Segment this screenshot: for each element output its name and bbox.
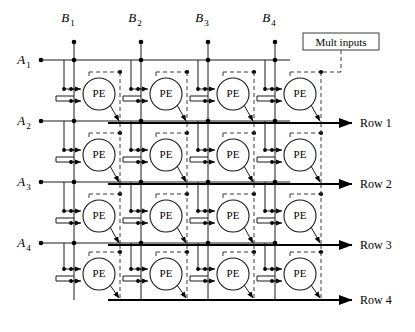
- b-operand-wire: [190, 276, 215, 281]
- pe-cell-r4-c3[interactable]: PE: [217, 258, 249, 290]
- pe-cell-r2-c2[interactable]: PE: [150, 139, 182, 171]
- a-input-letter: A1: [16, 52, 30, 70]
- a-operand-wire: [64, 121, 81, 150]
- pe-label: PE: [93, 148, 106, 160]
- a-input-label: A2: [16, 113, 30, 131]
- pe-cell-r1-c1[interactable]: PE: [83, 78, 115, 110]
- b-input-tick-dot: [270, 99, 274, 103]
- a-operand-wire: [64, 60, 81, 89]
- pe-accumulate-out: [177, 105, 186, 121]
- row-output-label: Row 1: [360, 116, 392, 130]
- a-input-label: A4: [16, 235, 31, 253]
- pe-accumulate-out: [311, 285, 320, 298]
- a-operand-dot: [196, 87, 200, 91]
- a-operand-wire: [198, 243, 215, 269]
- b-input-tick-dot: [69, 160, 73, 164]
- pe-cell-r3-c4[interactable]: PE: [284, 200, 316, 232]
- pe-label: PE: [294, 148, 307, 160]
- a-input-tick-dot: [270, 87, 274, 91]
- pe-accumulate-out: [311, 105, 320, 121]
- pe-accumulate-out: [244, 166, 253, 182]
- pe-label: PE: [294, 87, 307, 99]
- a-operand-wire: [265, 182, 282, 211]
- b-input-tick-dot: [203, 279, 207, 283]
- label-layer: B1B2B3B4A1A2A3A4Row 1Row 2Row 3Row 4: [16, 10, 391, 307]
- a-operand-dot: [263, 267, 267, 271]
- a-input-label: A3: [16, 174, 31, 192]
- pe-accumulate-out: [177, 285, 186, 298]
- b-operand-wire: [56, 218, 81, 223]
- pe-cell-r3-c3[interactable]: PE: [217, 200, 249, 232]
- b-input-letter: B2: [128, 10, 141, 28]
- a-operand-dot: [62, 267, 66, 271]
- a-operand-wire: [198, 182, 215, 211]
- b-input-tick-dot: [69, 279, 73, 283]
- a-input-subscript: 4: [26, 243, 31, 253]
- a-input-tick-dot: [69, 87, 73, 91]
- b-input-tick-dot: [136, 99, 140, 103]
- pe-cell-r4-c1[interactable]: PE: [83, 258, 115, 290]
- a-operand-wire: [64, 243, 81, 269]
- a-input-tick-dot: [203, 148, 207, 152]
- a-b-junction-dot: [72, 58, 77, 63]
- pe-accumulate-out: [177, 227, 186, 243]
- b-input-tick-dot: [270, 221, 274, 225]
- a-input-tick-dot: [270, 148, 274, 152]
- a-b-junction-dot: [206, 58, 211, 63]
- b-input-subscript: 1: [70, 18, 75, 28]
- b-input-label: B2: [128, 10, 141, 28]
- pe-cell-r4-c2[interactable]: PE: [150, 258, 182, 290]
- b-input-label: B1: [61, 10, 74, 28]
- b-operand-wire: [257, 276, 282, 281]
- a-input-tick-dot: [69, 267, 73, 271]
- a-operand-wire: [198, 121, 215, 150]
- diagram-canvas: PEPEPEPEPEPEPEPEPEPEPEPEPEPEPEPE B1B2B3B…: [0, 0, 415, 332]
- b-input-subscript: 4: [271, 18, 276, 28]
- b-input-tick-dot: [136, 160, 140, 164]
- b-operand-wire: [56, 276, 81, 281]
- a-input-subscript: 3: [26, 182, 31, 192]
- b-input-tick-dot: [203, 160, 207, 164]
- pe-label: PE: [160, 87, 173, 99]
- pe-cell-r3-c1[interactable]: PE: [83, 200, 115, 232]
- a-operand-dot: [129, 87, 133, 91]
- b-input-label: B3: [195, 10, 209, 28]
- a-operand-wire: [131, 60, 148, 89]
- a-operand-dot: [129, 267, 133, 271]
- a-input-tick-dot: [203, 209, 207, 213]
- pe-accumulate-out: [110, 105, 119, 121]
- b-input-letter: B1: [61, 10, 74, 28]
- b-operand-wire: [257, 157, 282, 162]
- a-operand-dot: [129, 209, 133, 213]
- a-input-tick-dot: [270, 267, 274, 271]
- row-output-label: Row 3: [360, 238, 392, 252]
- pe-label: PE: [93, 209, 106, 221]
- pe-cell-r1-c2[interactable]: PE: [150, 78, 182, 110]
- b-input-letter: B4: [262, 10, 276, 28]
- b-operand-wire: [56, 157, 81, 162]
- a-input-letter: A3: [16, 174, 31, 192]
- b-operand-wire: [190, 218, 215, 223]
- pe-label: PE: [227, 87, 240, 99]
- pe-cell-r2-c1[interactable]: PE: [83, 139, 115, 171]
- a-b-junction-dot: [72, 119, 77, 124]
- pe-cell-r3-c2[interactable]: PE: [150, 200, 182, 232]
- pe-accumulate-out: [311, 166, 320, 182]
- b-input-tick-dot: [136, 279, 140, 283]
- a-input-letter: A4: [16, 235, 31, 253]
- a-operand-wire: [131, 121, 148, 150]
- pe-cell-r1-c4[interactable]: PE: [284, 78, 316, 110]
- pe-cell-r2-c4[interactable]: PE: [284, 139, 316, 171]
- pe-cell-r1-c3[interactable]: PE: [217, 78, 249, 110]
- pe-cell-r4-c4[interactable]: PE: [284, 258, 316, 290]
- a-operand-wire: [198, 60, 215, 89]
- mult-inputs-label: Mult inputs: [315, 36, 366, 48]
- a-operand-dot: [62, 148, 66, 152]
- a-input-label: A1: [16, 52, 30, 70]
- a-operand-wire: [64, 182, 81, 211]
- a-operand-dot: [62, 87, 66, 91]
- pe-cell-r2-c3[interactable]: PE: [217, 139, 249, 171]
- a-operand-wire: [265, 121, 282, 150]
- a-operand-dot: [263, 87, 267, 91]
- b-input-subscript: 2: [137, 18, 142, 28]
